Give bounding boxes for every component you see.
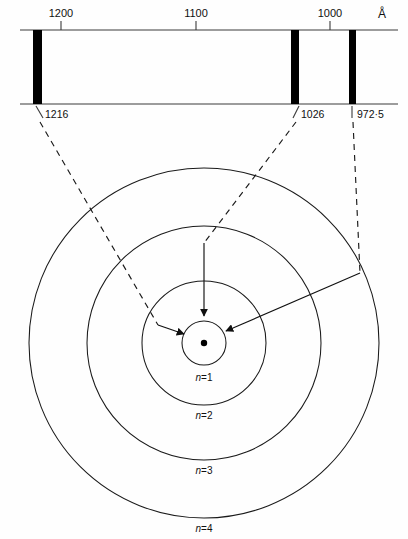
- spectral-line-label-1026: 1026: [301, 108, 325, 120]
- orbit-label-n1-value: =1: [201, 372, 213, 383]
- orbit-label-n3: n=3: [196, 465, 213, 476]
- orbit-label-n1: n=1: [196, 372, 213, 383]
- lyman-series-figure: 1200 1100 1000 Å 1216 1026 972·5: [0, 0, 408, 539]
- callout-tick-1026: [293, 106, 299, 118]
- callout-tick-1216: [36, 106, 43, 118]
- spectral-line-1216: [33, 30, 42, 104]
- spectral-line-label-972-5: 972·5: [357, 108, 384, 120]
- orbit-label-n2-value: =2: [201, 410, 213, 421]
- angstrom-unit-label: Å: [378, 6, 386, 21]
- tick-label-1000: 1000: [318, 7, 342, 19]
- orbit-label-n3-value: =3: [201, 465, 213, 476]
- transition-arrow-n2-to-n1: [158, 325, 184, 334]
- transition-arrow-n4-to-n1: [226, 273, 360, 331]
- leader-line-1026: [204, 122, 296, 243]
- transition-arrows: [158, 243, 360, 334]
- nucleus-dot: [201, 340, 207, 346]
- bohr-atom-diagram: n=1 n=2 n=3 n=4: [29, 168, 379, 534]
- orbit-label-n4: n=4: [196, 523, 213, 534]
- tick-label-1200: 1200: [49, 7, 73, 19]
- leader-line-972-5: [353, 122, 360, 273]
- spectral-line-label-1216: 1216: [45, 108, 69, 120]
- spectrum-panel: 1200 1100 1000 Å 1216 1026 972·5: [20, 6, 398, 120]
- spectral-line-labels: 1216 1026 972·5: [36, 106, 384, 120]
- spectral-lines: [33, 30, 356, 104]
- orbit-label-n2: n=2: [196, 410, 213, 421]
- orbit-label-n4-value: =4: [201, 523, 213, 534]
- leader-lines: [40, 122, 360, 325]
- axis-ticks: 1200 1100 1000: [49, 7, 342, 30]
- tick-label-1100: 1100: [184, 7, 208, 19]
- leader-line-1216: [40, 122, 158, 325]
- spectral-line-972-5: [349, 30, 356, 104]
- spectral-line-1026: [291, 30, 299, 104]
- orbit-labels: n=1 n=2 n=3 n=4: [196, 372, 213, 534]
